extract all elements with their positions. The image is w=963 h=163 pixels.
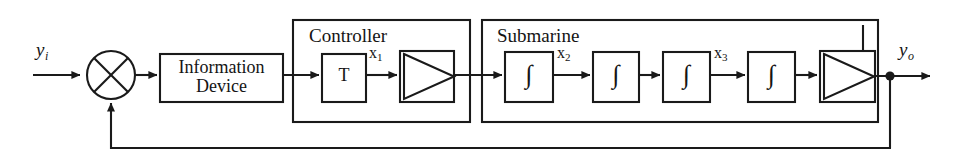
integrator-3-symbol: ∫ <box>663 62 710 88</box>
gain-controller-box <box>400 51 454 102</box>
information-device-line2: Device <box>161 77 282 96</box>
information-device-label: Information Device <box>161 58 282 96</box>
output-junction-dot <box>885 71 894 80</box>
x1-signal-label: x1 <box>369 45 383 61</box>
block-diagram-canvas: yi Information Device Controller T x1 Su… <box>0 0 963 163</box>
gain-output-box <box>820 51 875 102</box>
information-device-line1: Information <box>161 58 282 77</box>
integrator-4-symbol: ∫ <box>748 62 795 88</box>
diagram-vector-layer <box>0 0 963 163</box>
integrator-2-symbol: ∫ <box>593 62 639 88</box>
submarine-group-title: Submarine <box>497 26 579 45</box>
gain-output-triangle <box>824 54 874 99</box>
x3-signal-label: x3 <box>714 45 728 61</box>
input-signal-label: yi <box>36 40 48 59</box>
x2-signal-label: x2 <box>557 45 571 61</box>
transform-block-label: T <box>322 66 366 85</box>
integrator-1-symbol: ∫ <box>505 62 553 88</box>
output-signal-label: yo <box>899 40 913 59</box>
controller-group-title: Controller <box>309 26 387 45</box>
gain-controller-triangle <box>404 54 454 99</box>
